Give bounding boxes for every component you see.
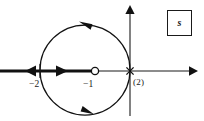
s-plane-box: s	[167, 10, 192, 36]
locus-left-arrowhead-icon	[25, 65, 36, 76]
root-locus-figure: −2 −1 (2) s	[0, 0, 204, 121]
label-minus-one: −1	[83, 80, 94, 90]
real-axis-locus-branch	[0, 64, 93, 78]
locus-right-arrowhead-icon	[56, 65, 68, 76]
s-plane-box-label: s	[178, 18, 182, 28]
label-minus-two: −2	[29, 80, 40, 90]
circular-locus-branch	[40, 22, 130, 116]
zero-at-minus-one	[91, 67, 98, 74]
circle-bottom-arrowhead-icon	[81, 106, 94, 114]
real-axis-arrowhead-icon	[189, 66, 198, 76]
zero-open-circle-icon	[91, 67, 98, 74]
label-pole-multiplicity: (2)	[133, 78, 144, 87]
imaginary-axis-arrowhead-icon	[125, 5, 134, 14]
imaginary-axis	[125, 5, 134, 116]
